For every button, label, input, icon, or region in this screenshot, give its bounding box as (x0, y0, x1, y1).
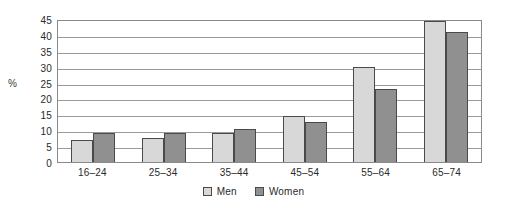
y-tick-label: 15 (40, 110, 52, 121)
y-tick-label: 10 (40, 126, 52, 137)
bar-women-45-54 (305, 122, 327, 162)
bar-group (142, 21, 186, 162)
y-tick-label: 25 (40, 78, 52, 89)
bar-group (212, 21, 256, 162)
bar-women-25-34 (164, 133, 186, 162)
bar-men-35-44 (212, 133, 234, 162)
bar-chart: % 454035302520151050 16–2425–3435–4445–5… (0, 0, 507, 205)
bar-men-55-64 (353, 67, 375, 162)
x-tick-label: 16–24 (62, 167, 122, 183)
x-tick-label: 55–64 (346, 167, 406, 183)
y-tick-label: 35 (40, 46, 52, 57)
y-axis-label: % (8, 78, 17, 89)
legend-label: Women (269, 186, 304, 197)
legend-label: Men (217, 186, 237, 197)
x-tick-label: 65–74 (417, 167, 477, 183)
y-axis-tick-labels: 454035302520151050 (26, 20, 52, 163)
x-tick-label: 25–34 (133, 167, 193, 183)
legend-swatch-icon (255, 187, 264, 196)
bar-men-25-34 (142, 138, 164, 162)
y-tick-label: 40 (40, 30, 52, 41)
bar-group (283, 21, 327, 162)
x-tick-label: 45–54 (275, 167, 335, 183)
bar-group (424, 21, 468, 162)
bar-women-35-44 (234, 129, 256, 162)
x-axis-tick-labels: 16–2425–3435–4445–5455–6465–74 (57, 167, 482, 183)
bar-women-55-64 (375, 89, 397, 162)
y-tick-label: 45 (40, 15, 52, 26)
legend-item-women: Women (255, 186, 304, 197)
y-tick-label: 30 (40, 62, 52, 73)
bar-women-16-24 (93, 133, 115, 162)
bar-men-45-54 (283, 116, 305, 162)
bar-group (71, 21, 115, 162)
bar-men-65-74 (424, 21, 446, 162)
bar-group (353, 21, 397, 162)
legend-item-men: Men (203, 186, 237, 197)
plot-area (57, 20, 482, 163)
y-tick-label: 20 (40, 94, 52, 105)
bars-layer (58, 21, 481, 162)
bar-men-16-24 (71, 140, 93, 162)
x-tick-label: 35–44 (204, 167, 264, 183)
legend-swatch-icon (203, 187, 212, 196)
chart-legend: MenWomen (0, 186, 507, 197)
y-tick-label: 0 (46, 158, 52, 169)
y-tick-label: 5 (46, 142, 52, 153)
bar-women-65-74 (446, 32, 468, 162)
